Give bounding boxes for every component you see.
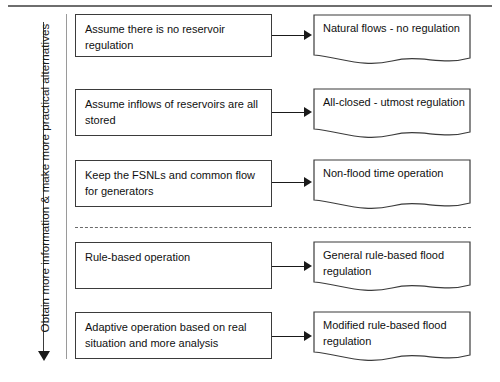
scenario-box[interactable]: Assume inflows of reservoirs are all sto… [75, 89, 272, 136]
outcome-label: General rule-based flood regulation [323, 248, 465, 279]
top-horizontal-rule [8, 5, 492, 7]
scenario-box[interactable]: Rule-based operation [75, 242, 272, 289]
outcome-label: All-closed - utmost regulation [323, 95, 465, 111]
outcome-label: Non-flood time operation [323, 166, 465, 182]
connector-line [272, 266, 305, 267]
connector-line [272, 182, 305, 183]
flowchart-canvas: Obtain more information & make more prac… [0, 0, 500, 382]
outcome-box[interactable]: All-closed - utmost regulation [313, 88, 471, 144]
scenario-box[interactable]: Assume there is no reservoir regulation [75, 14, 272, 57]
outcome-box[interactable]: Modified rule-based flood regulation [313, 311, 471, 367]
scenario-label: Rule-based operation [85, 250, 262, 266]
connector-line [272, 112, 305, 113]
scenario-label: Adaptive operation based on real situati… [85, 320, 262, 351]
outcome-box[interactable]: General rule-based flood regulation [313, 241, 471, 297]
connector-arrow-icon [304, 331, 312, 341]
progression-axis-label: Obtain more information & make more prac… [39, 8, 51, 348]
connector-line [272, 336, 305, 337]
scenario-label: Assume inflows of reservoirs are all sto… [85, 97, 262, 128]
outcome-box[interactable]: Natural flows - no regulation [313, 14, 471, 70]
scenario-label: Keep the FSNLs and common flow for gener… [85, 168, 262, 199]
connector-arrow-icon [304, 30, 312, 40]
scenario-box[interactable]: Keep the FSNLs and common flow for gener… [75, 160, 272, 207]
connector-arrow-icon [304, 261, 312, 271]
connector-arrow-icon [304, 107, 312, 117]
connector-arrow-icon [304, 177, 312, 187]
outcome-box[interactable]: Non-flood time operation [313, 159, 471, 215]
outcome-label: Natural flows - no regulation [323, 21, 465, 37]
outcome-label: Modified rule-based flood regulation [323, 318, 465, 349]
connector-line [272, 35, 305, 36]
inner-vertical-separator [66, 14, 67, 359]
scenario-label: Assume there is no reservoir regulation [85, 22, 262, 53]
scenario-box[interactable]: Adaptive operation based on real situati… [75, 312, 272, 359]
group-divider-dashed [75, 227, 471, 228]
progression-axis-arrow-icon [38, 351, 50, 361]
